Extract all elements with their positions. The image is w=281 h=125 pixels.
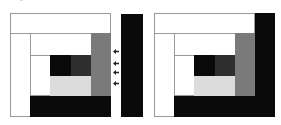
- arrow-left-icon: [113, 70, 119, 75]
- gray-column: [91, 33, 111, 96]
- black-right-column: [255, 13, 275, 117]
- second-white-strip: [174, 33, 236, 56]
- dark-gray-center: [215, 55, 235, 76]
- inner-white-strip: [30, 55, 51, 96]
- light-gray-strip: [50, 76, 91, 96]
- left-white-strip: [10, 33, 31, 117]
- scan-mark: [20, 0, 23, 1]
- light-gray-strip: [194, 76, 235, 96]
- arrow-left-icon: [113, 81, 119, 86]
- arrow-left-icon: [113, 61, 119, 66]
- top-white-strip: [10, 13, 111, 34]
- black-bottom-strip: [30, 96, 111, 117]
- dark-gray-center: [71, 55, 91, 76]
- inner-white-strip: [174, 55, 195, 96]
- separate-black-bar: [121, 14, 143, 117]
- top-white-strip: [154, 13, 255, 34]
- second-white-strip: [30, 33, 92, 56]
- arrow-left-icon: [113, 49, 119, 54]
- black-center: [50, 55, 71, 76]
- gray-column: [235, 33, 255, 96]
- left-white-strip: [154, 33, 175, 117]
- black-center: [194, 55, 215, 76]
